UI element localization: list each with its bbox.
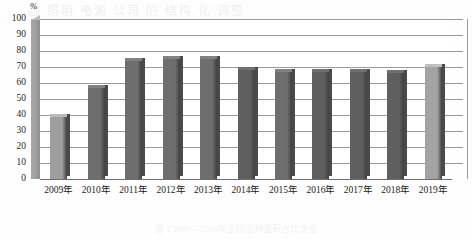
bar-top (275, 69, 292, 72)
bar-2010年 (88, 88, 105, 179)
bar-face (125, 61, 142, 179)
bar-chart-plot: % 0102030405060708090100 2009年2010年2011年… (0, 0, 472, 200)
y-axis-tick-10: 10 (0, 158, 26, 167)
y-axis-tick-50: 50 (0, 94, 26, 103)
bar-side (442, 64, 445, 176)
x-axis-label-2013年: 2013年 (190, 182, 227, 196)
x-axis-label-2019年: 2019年 (415, 182, 452, 196)
bar-side (142, 58, 145, 176)
gridline-0 (40, 179, 452, 180)
bar-2014年 (238, 70, 255, 179)
bar-2012年 (163, 59, 180, 179)
y-axis-tick-70: 70 (0, 62, 26, 71)
bar-side (292, 69, 295, 176)
bar-2016年 (312, 72, 329, 179)
y-axis-tick-0: 0 (0, 174, 26, 183)
bar-side (255, 67, 258, 176)
x-axis-label-2010年: 2010年 (77, 182, 114, 196)
bar-2017年 (350, 72, 367, 179)
x-axis-label-2016年: 2016年 (302, 182, 339, 196)
bar-top (425, 64, 442, 67)
bar-side (367, 69, 370, 176)
y-axis-tick-20: 20 (0, 142, 26, 151)
x-axis-label-2012年: 2012年 (152, 182, 189, 196)
bar-top (350, 69, 367, 72)
x-axis-label-2009年: 2009年 (40, 182, 77, 196)
bar-face (163, 59, 180, 179)
bar-face (200, 59, 217, 179)
bar-face (50, 117, 67, 179)
bar-side (67, 114, 70, 176)
bar-series (40, 19, 452, 179)
bar-top (238, 67, 255, 70)
y-axis-unit-label: % (30, 1, 38, 11)
bar-side (180, 56, 183, 176)
bar-side (105, 85, 108, 176)
bar-side (217, 56, 220, 176)
y-axis-tick-80: 80 (0, 46, 26, 55)
chart-figure: 圆 照明 电源 公司 的 结构 化 调整 % 01020304050607080… (0, 0, 472, 240)
y-axis-tick-90: 90 (0, 30, 26, 39)
bar-face (275, 72, 292, 179)
bar-side (329, 69, 332, 176)
bar-2018年 (387, 73, 404, 179)
chart-left-wall (31, 19, 40, 179)
bar-2015年 (275, 72, 292, 179)
bar-2013年 (200, 59, 217, 179)
y-axis-tick-100: 100 (0, 14, 26, 23)
bar-face (238, 70, 255, 179)
bar-side (404, 70, 407, 176)
x-axis-label-2018年: 2018年 (377, 182, 414, 196)
bar-2019年 (425, 67, 442, 179)
bar-top (50, 114, 67, 117)
bar-top (125, 58, 142, 61)
x-axis-label-2015年: 2015年 (265, 182, 302, 196)
bar-top (387, 70, 404, 73)
x-axis-label-2014年: 2014年 (227, 182, 264, 196)
y-axis-tick-labels: 0102030405060708090100 (0, 0, 26, 200)
figure-caption: 图 2 2009—2019年全国造林面积占比变化 (0, 222, 472, 235)
y-axis-tick-30: 30 (0, 126, 26, 135)
x-axis-tick-labels: 2009年2010年2011年2012年2013年2014年2015年2016年… (40, 182, 452, 200)
bar-2009年 (50, 117, 67, 179)
bar-top (312, 69, 329, 72)
y-axis-tick-60: 60 (0, 78, 26, 87)
bar-2011年 (125, 61, 142, 179)
x-axis-label-2017年: 2017年 (340, 182, 377, 196)
bar-face (312, 72, 329, 179)
bar-top (200, 56, 217, 59)
x-axis-label-2011年: 2011年 (115, 182, 152, 196)
bar-face (88, 88, 105, 179)
bar-top (88, 85, 105, 88)
chart-right-edge (452, 19, 468, 179)
bar-face (350, 72, 367, 179)
bar-face (425, 67, 442, 179)
bar-top (163, 56, 180, 59)
y-axis-tick-40: 40 (0, 110, 26, 119)
bar-face (387, 73, 404, 179)
